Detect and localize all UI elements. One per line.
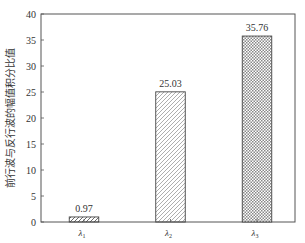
x-category-label: λ3 (251, 228, 259, 239)
x-category-label: λ2 (164, 228, 172, 239)
bars: 0.9725.0335.76 (69, 22, 272, 222)
bar (242, 36, 272, 222)
bar-value-label: 0.97 (75, 203, 93, 214)
x-axis-labels: λ1λ2λ3 (78, 228, 259, 239)
y-tick-label: 15 (26, 139, 36, 150)
y-tick-label: 30 (26, 61, 36, 72)
x-category-label: λ1 (78, 228, 86, 239)
y-tick-label: 20 (26, 113, 36, 124)
y-tick-label: 35 (26, 35, 36, 46)
bar-value-label: 35.76 (246, 22, 269, 33)
y-axis-label: 前行波与反行波的幅值积分比值 (4, 48, 16, 188)
y-tick-label: 5 (31, 191, 36, 202)
bar-value-label: 25.03 (159, 78, 182, 89)
y-tick-label: 40 (26, 9, 36, 20)
y-tick-label: 25 (26, 87, 36, 98)
y-tick-label: 10 (26, 165, 36, 176)
bar-chart: 0510152025303540 0.9725.0335.76 λ1λ2λ3 前… (0, 0, 305, 243)
y-tick-label: 0 (31, 217, 36, 228)
bar (156, 92, 186, 222)
